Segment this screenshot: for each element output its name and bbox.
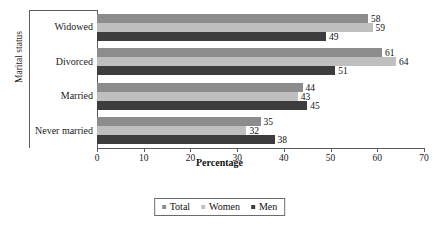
- legend-item-men[interactable]: Men: [251, 201, 277, 212]
- legend-label: Total: [170, 201, 190, 212]
- bar-women-married: [97, 92, 298, 101]
- bar-value-label: 59: [376, 24, 386, 33]
- x-axis-tick: [377, 148, 378, 152]
- category-label: Never married: [35, 125, 93, 136]
- legend-item-total[interactable]: Total: [162, 201, 190, 212]
- bar-total-widowed: [97, 14, 368, 23]
- legend-swatch-icon: [162, 205, 166, 209]
- x-axis-tick: [144, 148, 145, 152]
- x-axis-tick: [424, 148, 425, 152]
- bar-value-label: 64: [399, 58, 409, 67]
- bar-total-divorced: [97, 48, 382, 57]
- bar-women-divorced: [97, 57, 396, 66]
- bar-women-never-married: [97, 126, 246, 135]
- bar-women-widowed: [97, 23, 373, 32]
- bar-value-label: 38: [278, 136, 288, 145]
- category-label: Widowed: [55, 21, 93, 32]
- bar-value-label: 49: [329, 33, 339, 42]
- legend-label: Men: [259, 201, 277, 212]
- bar-chart-figure: Marital status WidowedDivorcedMarriedNev…: [0, 0, 439, 230]
- x-axis-title: Percentage: [0, 157, 439, 168]
- legend-swatch-icon: [251, 205, 255, 209]
- bar-men-never-married: [97, 135, 275, 144]
- x-axis-line: [97, 148, 424, 149]
- bar-value-label: 35: [264, 118, 274, 127]
- x-axis-tick: [97, 148, 98, 152]
- legend-label: Women: [209, 201, 240, 212]
- bar-value-label: 45: [310, 102, 320, 111]
- bar-total-never-married: [97, 117, 261, 126]
- bar-value-label: 51: [338, 67, 348, 76]
- bar-total-married: [97, 83, 303, 92]
- plot-area: 010203040506070 585949616451444345353238: [97, 10, 424, 148]
- bar-men-widowed: [97, 32, 326, 41]
- chart-legend: TotalWomenMen: [154, 198, 286, 216]
- x-axis-tick: [190, 148, 191, 152]
- category-label: Married: [61, 90, 93, 101]
- legend-item-women[interactable]: Women: [201, 201, 240, 212]
- legend-swatch-icon: [201, 205, 205, 209]
- category-label: Divorced: [56, 56, 93, 67]
- bar-men-married: [97, 101, 307, 110]
- bar-men-divorced: [97, 66, 335, 75]
- category-axis-labels: WidowedDivorcedMarriedNever married: [0, 10, 93, 148]
- x-axis-tick: [331, 148, 332, 152]
- x-axis-tick: [284, 148, 285, 152]
- x-axis-tick: [237, 148, 238, 152]
